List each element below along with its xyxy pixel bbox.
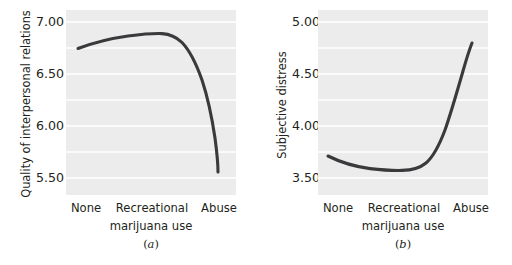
panel-b-caption-letter: b bbox=[399, 237, 406, 251]
panel-a-y-tick-7.00: 7.00 bbox=[22, 16, 64, 28]
figure-two-panel-line-charts: Quality of interpersonal relations 7.00 … bbox=[0, 0, 512, 265]
panel-a: Quality of interpersonal relations 7.00 … bbox=[0, 0, 256, 265]
panel-a-x-tick-none: None bbox=[56, 200, 116, 216]
panel-a-x-tick-recreational: Recreational bbox=[109, 200, 195, 216]
panel-a-plot-area bbox=[66, 10, 236, 195]
panel-b-caption-close: ) bbox=[407, 237, 411, 251]
panel-a-y-tick-6.00: 6.00 bbox=[22, 120, 64, 132]
panel-b-y-tick-5.00: 5.00 bbox=[278, 16, 320, 28]
panel-b-caption: (b) bbox=[318, 236, 488, 252]
panel-a-x-axis-title: marijuana use bbox=[66, 218, 236, 234]
panel-b-y-tick-4.50: 4.50 bbox=[278, 68, 320, 80]
panel-a-caption: (a) bbox=[66, 236, 236, 252]
panel-a-y-tick-6.50: 6.50 bbox=[22, 68, 64, 80]
panel-b: Subjective distress 5.00 4.50 4.00 3.50 bbox=[256, 0, 512, 265]
panel-b-y-tick-4.00: 4.00 bbox=[278, 120, 320, 132]
panel-a-x-tick-labels: None Recreational Abuse bbox=[56, 200, 246, 216]
panel-b-x-tick-recreational: Recreational bbox=[361, 200, 447, 216]
panel-b-y-tick-labels: 5.00 4.50 4.00 3.50 bbox=[270, 0, 320, 265]
panel-b-x-tick-labels: None Recreational Abuse bbox=[308, 200, 498, 216]
panel-a-y-tick-labels: 7.00 6.50 6.00 5.50 bbox=[14, 0, 64, 265]
panel-b-x-tick-abuse: Abuse bbox=[442, 200, 500, 216]
panel-b-gridlines bbox=[318, 22, 488, 178]
panel-a-caption-close: ) bbox=[154, 237, 158, 251]
panel-b-x-tick-none: None bbox=[308, 200, 368, 216]
panel-a-x-tick-abuse: Abuse bbox=[190, 200, 248, 216]
panel-b-y-tick-3.50: 3.50 bbox=[278, 172, 320, 184]
panel-b-x-axis-title: marijuana use bbox=[318, 218, 488, 234]
panel-a-chart-svg bbox=[66, 10, 236, 195]
panel-a-y-tick-5.50: 5.50 bbox=[22, 172, 64, 184]
panel-b-chart-svg bbox=[318, 10, 488, 195]
panel-b-plot-area bbox=[318, 10, 488, 195]
